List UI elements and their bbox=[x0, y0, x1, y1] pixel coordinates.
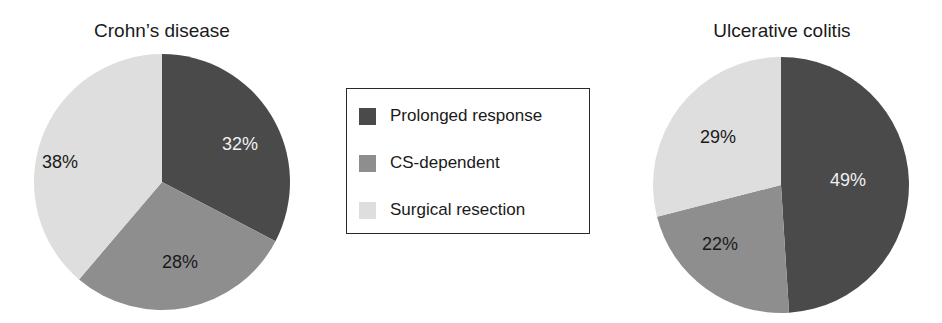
legend-label: CS-dependent bbox=[390, 153, 500, 173]
slice-percentage-label: 28% bbox=[162, 252, 198, 272]
legend-item-cs-dependent: CS-dependent bbox=[359, 153, 500, 173]
slice-percentage-label: 29% bbox=[700, 127, 736, 147]
slice-percentage-label: 49% bbox=[830, 170, 866, 190]
legend-swatch-light bbox=[359, 202, 376, 219]
slice-percentage-label: 22% bbox=[702, 234, 738, 254]
slice-percentage-label: 32% bbox=[222, 134, 258, 154]
legend-label: Surgical resection bbox=[390, 200, 525, 220]
legend-label: Prolonged response bbox=[390, 106, 542, 126]
legend-item-prolonged-response: Prolonged response bbox=[359, 106, 542, 126]
uc-pie-chart: 49%22%29% bbox=[653, 57, 909, 313]
legend-swatch-medium bbox=[359, 155, 376, 172]
legend-item-surgical-resection: Surgical resection bbox=[359, 200, 525, 220]
legend-swatch-dark bbox=[359, 108, 376, 125]
crohns-pie-chart: 32%28%38% bbox=[34, 54, 290, 310]
legend: Prolonged response CS-dependent Surgical… bbox=[346, 88, 590, 234]
slice-percentage-label: 38% bbox=[42, 152, 78, 172]
